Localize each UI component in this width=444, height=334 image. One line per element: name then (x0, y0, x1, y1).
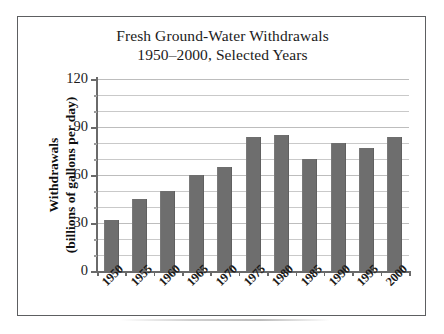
bar (160, 191, 175, 271)
x-axis-tick (296, 271, 298, 276)
y-axis-tick-minor (94, 95, 97, 97)
chart-title-line-2: 1950–2000, Selected Years (18, 45, 427, 64)
figure-page: Fresh Ground-Water Withdrawals 1950–2000… (0, 0, 444, 334)
chart-title: Fresh Ground-Water Withdrawals 1950–2000… (18, 26, 427, 64)
bar (331, 143, 346, 271)
y-axis-tick-minor (94, 143, 97, 145)
x-axis-tick (97, 271, 99, 276)
x-axis-tick (352, 271, 354, 276)
y-axis-tick (91, 175, 97, 177)
bar (246, 137, 261, 271)
bar (132, 199, 147, 271)
plot-area: 0306090120195019551960196519701975198019… (97, 79, 409, 271)
y-axis-tick-label: 60 (74, 166, 89, 183)
bar (217, 167, 232, 271)
bar (189, 175, 204, 271)
x-axis-tick (125, 271, 127, 276)
y-axis-tick-minor (94, 255, 97, 257)
x-axis-tick (381, 271, 383, 276)
x-axis-tick (154, 271, 156, 276)
bar (302, 159, 317, 271)
y-axis-tick-minor (94, 159, 97, 161)
y-axis-tick-label: 120 (66, 70, 88, 87)
x-axis-tick (239, 271, 241, 276)
y-axis-title-line-1: Withdrawals (46, 138, 62, 213)
y-axis-tick-label: 0 (81, 262, 88, 279)
bar (359, 148, 374, 271)
y-axis-tick-label: 30 (74, 214, 89, 231)
x-axis-tick (210, 271, 212, 276)
chart-title-line-1: Fresh Ground-Water Withdrawals (18, 26, 427, 45)
x-axis-tick (324, 271, 326, 276)
figure-frame: Fresh Ground-Water Withdrawals 1950–2000… (17, 16, 426, 316)
x-axis-tick (267, 271, 269, 276)
y-axis-tick-minor (94, 191, 97, 193)
x-axis-tick (409, 271, 411, 276)
y-axis-tick-minor (94, 239, 97, 241)
y-axis-tick (91, 127, 97, 129)
y-axis-tick-minor (94, 111, 97, 113)
bar-series (97, 79, 409, 271)
bar (387, 137, 402, 271)
y-axis-tick (91, 79, 97, 81)
y-axis-tick (91, 223, 97, 225)
y-axis-tick-label: 90 (74, 118, 89, 135)
x-axis-tick (182, 271, 184, 276)
bar (274, 135, 289, 271)
scan-artifact (120, 319, 330, 321)
y-axis-tick-minor (94, 207, 97, 209)
